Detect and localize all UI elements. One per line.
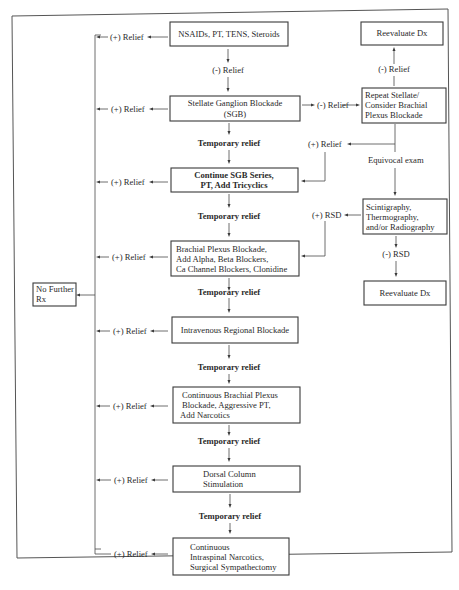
plus-relief-row-1: (+) Relief [96,32,168,42]
edge-label: (+) Relief [110,32,144,42]
edge-sgb-repeat: (-) Relief [302,100,360,110]
edge-dorsal-intraspinal: Temporary relief [199,494,261,534]
box-repeat-stellate: Repeat Stellate/ Consider Brachial Plexu… [362,88,446,123]
edge-iv-continuous: Temporary relief [198,345,260,384]
edge-label: (+) Relief [114,549,148,559]
edge-continuous-dorsal: Temporary relief [198,425,260,462]
box-text: Reevaluate Dx [380,288,432,298]
box-text: Repeat Stellate/ [365,90,420,100]
plus-relief-row-2: (+) Relief [96,104,168,114]
edge-continue-brachial: Temporary relief [198,194,260,237]
box-text: Stimulation [203,479,244,489]
box-scintigraphy: Scintigraphy, Thermography, and/or Radio… [363,199,447,234]
edge-label: Temporary relief [198,362,260,372]
box-text: Rx [36,294,47,304]
box-text: PT, Add Tricyclics [200,180,268,190]
box-text: No Further [36,284,74,294]
plus-relief-row-3: (+) Relief [96,177,168,187]
edge-label: (+) Relief [113,326,147,336]
box-text: Intraspinal Narcotics, [190,552,264,562]
plus-relief-row-6: (+) Relief [96,401,168,411]
edge-sgb-continue: Temporary relief [198,123,260,164]
box-text: Brachial Plexus Blockade, [176,244,267,254]
edge-repeat-reevaluate: (-) Relief [378,47,410,86]
edge-label: (+) RSD [312,210,341,220]
edge-label: Temporary relief [198,211,260,221]
edge-label: Temporary relief [199,511,261,521]
edge-label: (-) Relief [212,65,244,75]
box-text: Ca Channel Blockers, Clonidine [176,264,287,274]
box-no-further-rx: No Further Rx [33,283,76,306]
edge-label: (+) Relief [111,177,145,187]
box-text: Add Alpha, Beta Blockers, [176,254,268,264]
edge-repeat-continue: (+) Relief [301,124,395,183]
box-brachial-plexus: Brachial Plexus Blockade, Add Alpha, Bet… [171,241,299,276]
edge-label: (+) Relief [112,252,146,262]
edge-brachial-iv: Temporary relief [198,278,260,313]
box-text: Consider Brachial [365,100,428,110]
box-reevaluate-top: Reevaluate Dx [361,22,443,45]
box-text: Dorsal Column [203,469,256,479]
plus-relief-row-8: (+) Relief [95,549,168,559]
box-text: Blockade, Aggressive PT, [182,400,271,410]
edge-label: (-) RSD [382,249,409,259]
box-text: (SGB) [224,109,247,119]
box-continuous-brachial: Continuous Brachial Plexus Blockade, Agg… [173,387,300,423]
edge-nsaids-sgb: (-) Relief [212,49,244,92]
box-text: Scintigraphy, [366,202,412,212]
edge-label: Temporary relief [198,287,260,297]
edge-label: Temporary relief [198,138,260,148]
box-text: Continuous [190,542,230,552]
box-text: and/or Radiography [366,222,435,232]
edge-label: (+) Relief [111,104,145,114]
box-reevaluate-bottom: Reevaluate Dx [364,281,446,305]
plus-relief-row-7: (+) Relief [96,475,168,485]
box-dorsal-column: Dorsal Column Stimulation [173,466,300,492]
edge-label: (+) Relief [308,139,342,149]
box-text: Add Narcotics [180,410,231,420]
box-intraspinal: Continuous Intraspinal Narcotics, Surgic… [173,538,289,575]
plus-relief-row-4: (+) Relief [96,252,168,262]
box-continue-sgb: Continue SGB Series, PT, Add Tricyclics [171,168,298,192]
box-text: Stellate Ganglion Blockade [188,98,283,108]
edge-label: Equivocal exam [368,155,424,165]
box-text: NSAIDs, PT, TENS, Steroids [178,29,280,39]
edge-label: (+) Relief [113,401,147,411]
box-text: Plexus Blockade [365,110,423,120]
box-text: Continuous Brachial Plexus [182,390,279,400]
box-text: Surgical Sympathectomy [190,562,277,572]
arrowhead-icon [76,294,80,297]
box-text: Continue SGB Series, [194,170,274,180]
box-sgb: Stellate Ganglion Blockade (SGB) [170,96,300,121]
edge-scintigraphy-brachial: (+) RSD [301,210,361,258]
edge-scintigraphy-reevaluate: (-) RSD [382,236,409,277]
treatment-flowchart: No Further Rx (+) Relief (+) Relief (+) … [0,0,459,590]
edge-label: (+) Relief [114,475,148,485]
plus-relief-row-5: (+) Relief [96,326,168,336]
edge-repeat-scintigraphy: Equivocal exam [368,144,424,196]
box-iv-regional: Intravenous Regional Blockade [172,317,298,343]
box-text: Intravenous Regional Blockade [181,325,290,335]
box-nsaids: NSAIDs, PT, TENS, Steroids [170,22,288,46]
edge-label: Temporary relief [198,436,260,446]
box-text: Thermography, [366,212,419,222]
box-text: Reevaluate Dx [377,28,429,38]
edge-label: (-) Relief [378,64,410,74]
